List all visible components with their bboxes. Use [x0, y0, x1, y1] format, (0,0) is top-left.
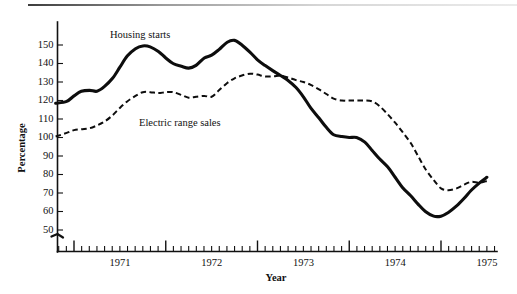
chart-figure: 5060708090100110120130140150 19711972197… — [0, 0, 517, 294]
y-axis-title: Percentage — [16, 123, 27, 173]
x-axis-title: Year — [266, 272, 287, 283]
x-tick-label-1973: 1973 — [293, 257, 314, 268]
y-tick-label-90: 90 — [43, 150, 54, 161]
x-tick-label-1974: 1974 — [385, 257, 407, 268]
x-axis-group: 19711972197319741975 — [58, 241, 498, 268]
y-tick-labels: 5060708090100110120130140150 — [38, 39, 54, 235]
y-tick-label-100: 100 — [38, 131, 54, 142]
x-tick-label-1972: 1972 — [201, 257, 222, 268]
y-tick-label-70: 70 — [43, 187, 54, 198]
series-annotation-housing-starts: Housing starts — [110, 29, 170, 40]
series-line-electric-range-sales — [56, 74, 487, 191]
series-annotation-electric-range-sales: Electric range sales — [139, 117, 221, 128]
page-scan-artifact — [28, 4, 517, 6]
x-tick-label-1971: 1971 — [109, 257, 130, 268]
x-tick-marks — [59, 241, 495, 252]
series-line-housing-starts — [56, 40, 487, 216]
y-tick-label-50: 50 — [43, 224, 54, 235]
x-tick-label-1975: 1975 — [476, 257, 497, 268]
x-tick-labels: 19711972197319741975 — [109, 257, 497, 268]
y-tick-label-140: 140 — [38, 57, 54, 68]
chart-svg: 5060708090100110120130140150 19711972197… — [0, 0, 517, 294]
y-tick-label-150: 150 — [38, 39, 54, 50]
y-tick-label-80: 80 — [43, 168, 54, 179]
y-tick-label-120: 120 — [38, 94, 54, 105]
y-tick-label-130: 130 — [38, 76, 54, 87]
y-tick-label-60: 60 — [43, 205, 54, 216]
y-tick-label-110: 110 — [38, 113, 53, 124]
y-axis-group: 5060708090100110120130140150 — [38, 22, 63, 252]
data-lines — [56, 40, 487, 216]
y-tick-marks — [58, 45, 64, 230]
